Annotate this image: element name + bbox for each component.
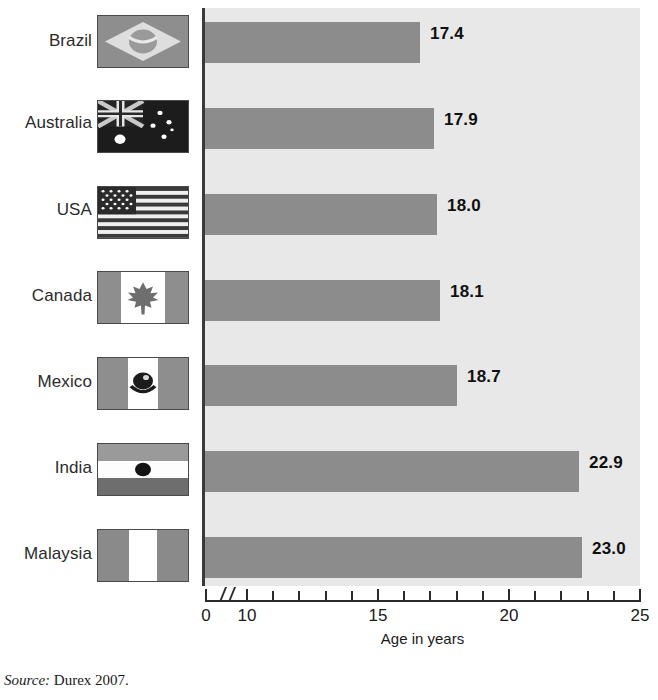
x-tick-21 [534, 591, 536, 602]
flag-canada-icon [97, 271, 189, 324]
x-tick-10 [246, 589, 248, 602]
bar-value-australia: 17.9 [444, 110, 478, 130]
bar-mexico [205, 365, 457, 406]
x-axis-title: Age in years [205, 630, 640, 647]
category-label-india: India [55, 458, 92, 478]
category-label-australia: Australia [25, 113, 92, 133]
bar-chart: Brazil Australia USA Canada Mexico India… [0, 0, 658, 700]
x-tick-0 [205, 589, 207, 602]
x-tick-label-0: 0 [196, 606, 216, 626]
bar-brazil [205, 22, 420, 63]
x-tick-12 [298, 591, 300, 602]
bar-value-brazil: 17.4 [430, 24, 464, 44]
category-label-usa: USA [57, 200, 92, 220]
flag-malaysia-icon [97, 529, 189, 582]
bar-australia [205, 108, 434, 149]
x-tick-22 [560, 591, 562, 602]
flag-mexico-icon [97, 357, 189, 410]
bar-value-usa: 18.0 [447, 196, 481, 216]
source-label: Source: [4, 672, 50, 688]
x-tick-15 [377, 589, 379, 602]
category-label-canada: Canada [32, 286, 92, 306]
x-tick-label-10: 10 [232, 606, 262, 626]
x-tick-label-20: 20 [494, 606, 524, 626]
x-tick-14 [351, 591, 353, 602]
bar-value-india: 22.9 [589, 453, 623, 473]
x-tick-24 [613, 591, 615, 602]
x-tick-25 [639, 589, 641, 602]
bar-usa [205, 194, 437, 235]
x-axis-line [205, 600, 640, 602]
x-tick-23 [587, 591, 589, 602]
x-tick-18 [456, 591, 458, 602]
x-tick-11 [272, 591, 274, 602]
bar-india [205, 451, 579, 492]
x-tick-19 [482, 591, 484, 602]
flag-brazil-icon [97, 15, 189, 68]
bar-value-mexico: 18.7 [467, 367, 501, 387]
x-tick-13 [325, 591, 327, 602]
plot-area [205, 8, 640, 586]
bar-malaysia [205, 537, 582, 578]
flag-india-icon [97, 443, 189, 496]
bar-canada [205, 280, 440, 321]
category-label-malaysia: Malaysia [24, 544, 92, 564]
bar-value-malaysia: 23.0 [592, 539, 626, 559]
x-tick-label-15: 15 [363, 606, 393, 626]
x-tick-20 [508, 589, 510, 602]
x-tick-17 [429, 591, 431, 602]
source-note: Source: Durex 2007. [4, 672, 129, 689]
source-text: Durex 2007. [54, 672, 129, 688]
category-label-mexico: Mexico [38, 372, 92, 392]
bar-value-canada: 18.1 [450, 282, 484, 302]
category-label-brazil: Brazil [49, 31, 92, 51]
flag-usa-icon [97, 186, 189, 239]
x-tick-16 [403, 591, 405, 602]
x-tick-label-25: 25 [625, 606, 655, 626]
x-axis: 0 10 15 20 25 Age in years [0, 586, 658, 646]
flag-australia-icon [97, 100, 189, 153]
